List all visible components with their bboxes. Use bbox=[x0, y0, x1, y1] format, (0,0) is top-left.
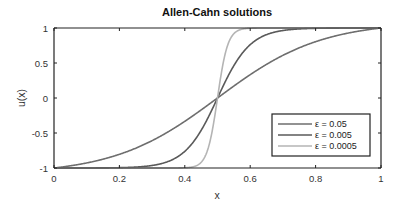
y-tick-label: -0.5 bbox=[32, 128, 48, 139]
y-tick-label: 0 bbox=[43, 93, 48, 104]
legend: ε = 0.05ε = 0.005ε = 0.0005 bbox=[272, 114, 370, 156]
x-tick-label: 0 bbox=[51, 173, 56, 184]
chart: Allen-Cahn solutions 00.20.40.60.81-1-0.… bbox=[0, 0, 394, 216]
x-tick-label: 0.2 bbox=[113, 173, 126, 184]
legend-label-0: ε = 0.05 bbox=[315, 119, 347, 129]
x-tick-label: 0.8 bbox=[309, 173, 322, 184]
x-tick-label: 1 bbox=[378, 173, 383, 184]
y-tick-label: 0.5 bbox=[35, 58, 48, 69]
x-tick-label: 0.4 bbox=[178, 173, 191, 184]
x-tick-label: 0.6 bbox=[244, 173, 257, 184]
y-axis-label: u(x) bbox=[15, 89, 27, 107]
legend-label-1: ε = 0.005 bbox=[315, 130, 352, 140]
chart-title: Allen-Cahn solutions bbox=[162, 6, 272, 18]
legend-label-2: ε = 0.0005 bbox=[315, 141, 357, 151]
y-tick-label: 1 bbox=[43, 23, 48, 34]
y-tick-label: -1 bbox=[40, 163, 48, 174]
x-axis-label: x bbox=[214, 189, 220, 201]
